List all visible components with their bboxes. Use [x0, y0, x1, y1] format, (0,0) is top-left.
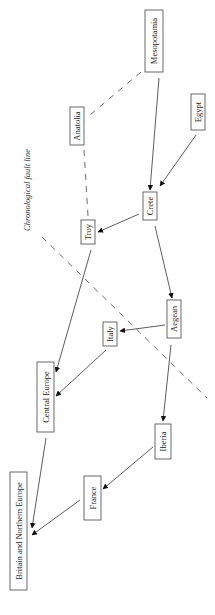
dashed-mesopotamia-anatolia	[90, 72, 141, 115]
node-italy: Italy	[103, 322, 117, 346]
edge-aegean-italy	[120, 325, 165, 331]
node-troy: Troy	[81, 220, 95, 244]
node-label-iberia: Iberia	[158, 431, 168, 451]
node-crete: Crete	[143, 192, 157, 220]
edge-france-britain	[32, 500, 80, 535]
edge-italy-central-europe	[56, 350, 106, 396]
edge-crete-aegean	[155, 226, 172, 298]
node-label-central-europe: Central Europe	[41, 371, 51, 423]
node-france: France	[84, 476, 101, 520]
node-label-egypt: Egypt	[193, 101, 203, 122]
dashed-anatolia-troy	[84, 150, 88, 216]
node-iberia: Iberia	[155, 424, 171, 459]
node-central-europe: Central Europe	[37, 362, 54, 432]
node-mesopotamia: Mesopotamia	[145, 10, 163, 72]
node-label-britain-northern-europe: Britain and Northern Europe	[14, 482, 24, 580]
edge-iberia-france	[103, 447, 153, 489]
node-label-troy: Troy	[83, 223, 93, 240]
edge-egypt-crete	[160, 135, 196, 186]
node-label-anatolia: Anatolia	[72, 111, 82, 140]
chronological-fault-line	[42, 237, 207, 398]
migration-diagram: Mesopotamia Egypt Anatolia Crete Troy Ae…	[0, 0, 215, 615]
node-label-crete: Crete	[145, 197, 155, 216]
node-egypt: Egypt	[191, 94, 205, 130]
node-label-france: France	[88, 486, 98, 509]
node-label-italy: Italy	[105, 325, 115, 341]
fault-line-label: Chronological fault line	[22, 149, 32, 231]
edge-troy-central-europe	[56, 250, 91, 372]
node-anatolia: Anatolia	[70, 107, 84, 145]
node-label-aegean: Aegean	[169, 305, 179, 332]
edge-mesopotamia-crete	[150, 78, 159, 190]
node-aegean: Aegean	[167, 300, 181, 338]
edge-central-europe-britain	[32, 438, 46, 528]
edge-crete-troy	[98, 214, 139, 232]
node-label-mesopotamia: Mesopotamia	[149, 18, 159, 64]
node-britain-northern-europe: Britain and Northern Europe	[10, 472, 27, 590]
